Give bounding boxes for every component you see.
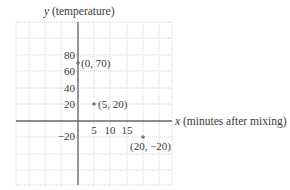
y-tick-40: 40 [64,82,76,94]
point-label-0-70: (0, 70) [81,57,111,70]
data-point-20-neg20 [141,135,145,139]
coordinate-plane: y (temperature) x (minutes after mixing)… [0,0,290,190]
y-tick-60: 60 [64,65,76,77]
point-label-5-20: (5, 20) [98,98,128,111]
x-tick-15: 15 [122,124,134,136]
y-axis-title: y (temperature) [43,5,115,18]
y-tick-neg20: −20 [58,130,76,142]
data-point-5-20 [92,102,96,106]
point-label-20-neg20: (20, −20) [130,140,171,153]
x-tick-5: 5 [91,124,97,136]
y-tick-80: 80 [64,49,76,61]
x-axis-title: x (minutes after mixing) [174,115,287,128]
y-tick-20: 20 [64,98,76,110]
data-point-0-70 [76,61,80,65]
x-tick-10: 10 [105,124,117,136]
